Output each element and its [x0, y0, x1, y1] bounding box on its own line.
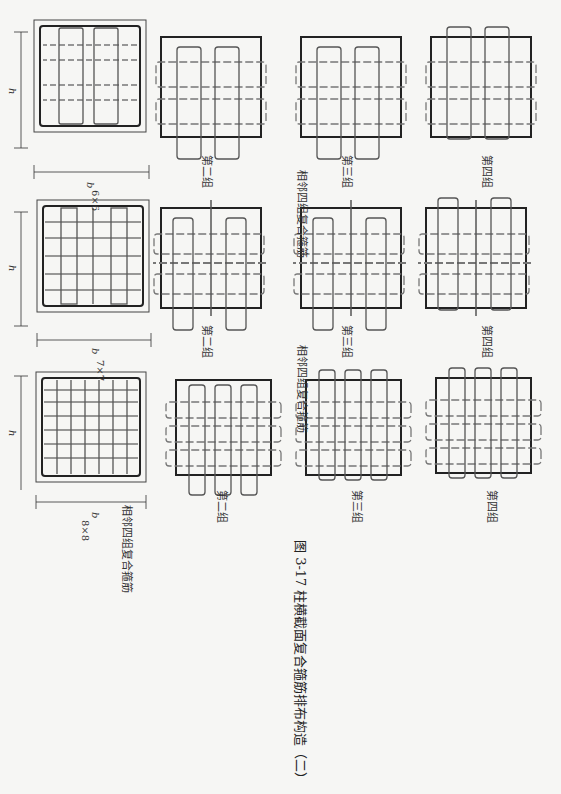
row1-group3-label: 第三组 — [340, 155, 356, 188]
row1-dim-b: b — [85, 182, 96, 188]
group-drawings-7x7 — [153, 198, 531, 330]
row1-caption: 相邻四组复合箍筋 — [295, 170, 311, 258]
row3-group4-label: 第四组 — [485, 490, 501, 523]
row3-dim-b: b — [90, 512, 101, 518]
rotated-page-stage: 第四组 第三组 第二组 相邻四组复合箍筋 b 6×6 h 第四组 第三组 第二组… — [0, 0, 561, 794]
row2-caption: 相邻四组复合箍筋 — [295, 345, 311, 433]
row3-caption: 相邻四组复合箍筋 — [120, 505, 136, 593]
row3-group3-label: 第三组 — [350, 490, 366, 523]
section-6x6 — [14, 20, 149, 179]
row2-group2-label: 第二组 — [200, 325, 216, 358]
row1-group2-label: 第二组 — [200, 155, 216, 188]
row2-group3-label: 第三组 — [340, 325, 356, 358]
row-7x7 — [14, 198, 531, 347]
row2-group4-label: 第四组 — [480, 325, 496, 358]
row2-dim-h: h — [7, 265, 18, 271]
row1-size-label: 6×6 — [90, 190, 101, 211]
stirrup-drawings — [0, 0, 561, 794]
section-7x7 — [14, 200, 151, 347]
section-8x8 — [14, 372, 146, 509]
row-8x8 — [14, 368, 541, 509]
group-drawings-8x8 — [166, 368, 541, 495]
row3-dim-h: h — [7, 430, 18, 436]
row3-group2-label: 第二组 — [215, 490, 231, 523]
group-drawings-6x6 — [156, 27, 536, 159]
drawing-page: 第四组 第三组 第二组 相邻四组复合箍筋 b 6×6 h 第四组 第三组 第二组… — [0, 0, 561, 794]
row2-dim-b: b — [90, 348, 101, 354]
row-6x6 — [14, 20, 536, 179]
row1-dim-h: h — [7, 88, 18, 94]
figure-caption: 图 3-17 柱横截面复合箍筋排布构造（二） — [292, 540, 311, 785]
row3-size-label: 8×8 — [80, 520, 91, 541]
row1-group4-label: 第四组 — [480, 155, 496, 188]
row2-size-label: 7×7 — [95, 360, 106, 381]
